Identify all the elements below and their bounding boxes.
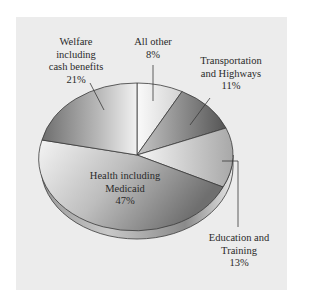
- label-text: including: [38, 49, 114, 62]
- label-value: 47%: [70, 195, 180, 208]
- label-text: Welfare: [38, 36, 114, 49]
- label-value: 21%: [38, 74, 114, 87]
- label-text: and Highways: [186, 68, 276, 81]
- label-education: Education and Training 13%: [198, 232, 280, 270]
- label-value: 13%: [198, 257, 280, 270]
- label-transport: Transportation and Highways 11%: [186, 55, 276, 93]
- label-value: 11%: [186, 80, 276, 93]
- label-text: Medicaid: [70, 183, 180, 196]
- label-value: 8%: [121, 49, 185, 62]
- label-text: All other: [121, 36, 185, 49]
- label-text: Transportation: [186, 55, 276, 68]
- label-text: Education and: [198, 232, 280, 245]
- label-health: Health including Medicaid 47%: [70, 170, 180, 208]
- label-all-other: All other 8%: [121, 36, 185, 61]
- label-welfare: Welfare including cash benefits 21%: [38, 36, 114, 86]
- label-text: Health including: [70, 170, 180, 183]
- label-text: Training: [198, 245, 280, 258]
- label-text: cash benefits: [38, 61, 114, 74]
